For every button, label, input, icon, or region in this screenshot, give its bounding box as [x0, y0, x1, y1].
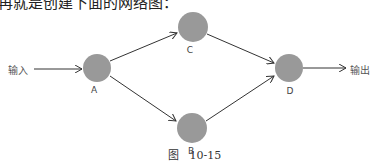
node-c: [178, 12, 208, 42]
output-label: 输出: [350, 62, 370, 77]
node-a-label: A: [91, 85, 97, 95]
network-diagram: [0, 0, 381, 161]
edge-a-c: [110, 33, 177, 61]
node-b: [177, 113, 207, 143]
input-label: 输入: [8, 62, 28, 77]
edge-c-d: [207, 34, 274, 63]
node-d: [275, 54, 303, 82]
node-d-label: D: [287, 86, 294, 96]
edge-b-d: [206, 76, 274, 121]
figure-caption: 图 10-15: [168, 146, 221, 161]
node-c-label: C: [187, 45, 193, 55]
node-a: [83, 54, 111, 82]
edge-a-b: [110, 76, 176, 121]
